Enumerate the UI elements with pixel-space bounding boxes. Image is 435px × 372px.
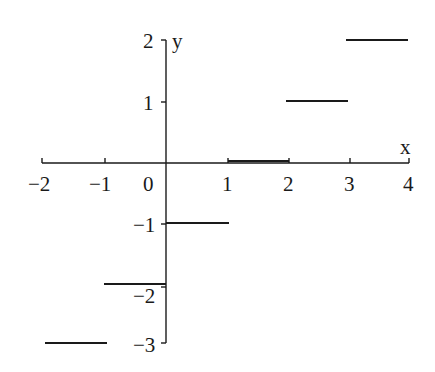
y-tick-label: −1 [133, 213, 155, 237]
y-tick-label: 1 [143, 91, 154, 115]
x-tick-label: 1 [222, 172, 233, 196]
y-tick-label: −3 [133, 333, 155, 357]
x-tick-label: 3 [344, 172, 355, 196]
x-tick-label: −2 [28, 172, 50, 196]
y-axis-label: y [172, 29, 183, 53]
x-axis [42, 158, 409, 163]
x-tick-label: 4 [403, 172, 414, 196]
step-function-chart: x y −2 −1 0 1 2 3 4 2 1 −1 −2 −3 [0, 0, 435, 372]
y-axis [161, 40, 166, 343]
x-axis-label: x [400, 135, 411, 159]
y-tick-label: 2 [143, 29, 154, 53]
x-tick-label: 2 [283, 172, 294, 196]
x-tick-label: 0 [143, 172, 154, 196]
x-tick-label: −1 [89, 172, 111, 196]
y-tick-label: −2 [133, 284, 155, 308]
